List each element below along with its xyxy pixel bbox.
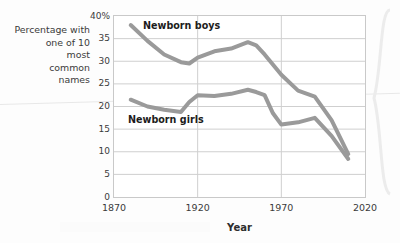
x-tick-label-1970: 1970 bbox=[258, 203, 304, 213]
chart-figure: Percentage with one of 10 most common na… bbox=[0, 0, 400, 243]
series-annotation-newborn-girls: Newborn girls bbox=[128, 114, 204, 125]
x-axis-title: Year bbox=[113, 222, 366, 233]
x-tick-label-1920: 1920 bbox=[175, 203, 221, 213]
series-annotation-newborn-boys: Newborn boys bbox=[143, 20, 220, 31]
x-tick-label-2020: 2020 bbox=[342, 203, 388, 213]
x-tick-label-1870: 1870 bbox=[91, 203, 137, 213]
